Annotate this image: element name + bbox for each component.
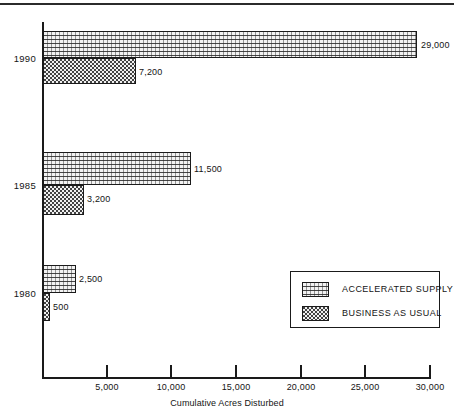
y-category-label-1990: 1990 — [0, 53, 36, 64]
legend-swatch-accelerated-supply — [302, 282, 329, 297]
bar-1985-business-as-usual[interactable] — [43, 185, 84, 215]
x-tick-label-30000: 30,000 — [416, 382, 445, 392]
x-tick-30000 — [429, 365, 431, 378]
bar-value-1980-accelerated-supply: 2,500 — [79, 274, 103, 284]
x-tick-15000 — [235, 365, 237, 378]
bar-1980-accelerated-supply[interactable] — [43, 265, 76, 293]
x-axis-title: Cumulative Acres Disturbed — [0, 398, 454, 408]
legend-item-business-as-usual[interactable]: BUSINESS AS USUAL — [302, 305, 442, 321]
bar-value-1990-business-as-usual: 7,200 — [139, 67, 163, 77]
bar-1980-business-as-usual[interactable] — [43, 293, 50, 321]
bar-value-1985-accelerated-supply: 11,500 — [194, 164, 222, 174]
x-tick-label-20000: 20,000 — [287, 382, 316, 392]
y-category-label-1980: 1980 — [0, 288, 36, 299]
bar-value-1990-accelerated-supply: 29,000 — [421, 40, 450, 50]
x-tick-label-5000: 5,000 — [95, 382, 119, 392]
page-top-rule — [0, 3, 454, 5]
legend: ACCELERATED SUPPLY BUSINESS AS USUAL — [290, 271, 440, 328]
x-tick-label-10000: 10,000 — [157, 382, 186, 392]
x-tick-20000 — [300, 365, 302, 378]
legend-label-business-as-usual: BUSINESS AS USUAL — [342, 308, 442, 318]
bar-chart-figure: 5,000 10,000 15,000 20,000 25,000 30,000… — [0, 0, 454, 417]
bar-1990-business-as-usual[interactable] — [43, 58, 136, 84]
x-tick-label-25000: 25,000 — [351, 382, 380, 392]
bar-value-1980-business-as-usual: 500 — [53, 302, 69, 312]
bar-value-1985-business-as-usual: 3,200 — [87, 194, 111, 204]
x-tick-5000 — [106, 365, 108, 378]
y-category-label-1985: 1985 — [0, 180, 36, 191]
legend-item-accelerated-supply[interactable]: ACCELERATED SUPPLY — [302, 281, 453, 297]
legend-swatch-business-as-usual — [302, 306, 329, 321]
bar-1990-accelerated-supply[interactable] — [43, 31, 417, 58]
x-tick-label-15000: 15,000 — [222, 382, 251, 392]
bar-1985-accelerated-supply[interactable] — [43, 152, 191, 185]
x-tick-10000 — [170, 365, 172, 378]
legend-label-accelerated-supply: ACCELERATED SUPPLY — [342, 284, 453, 294]
x-tick-25000 — [364, 365, 366, 378]
